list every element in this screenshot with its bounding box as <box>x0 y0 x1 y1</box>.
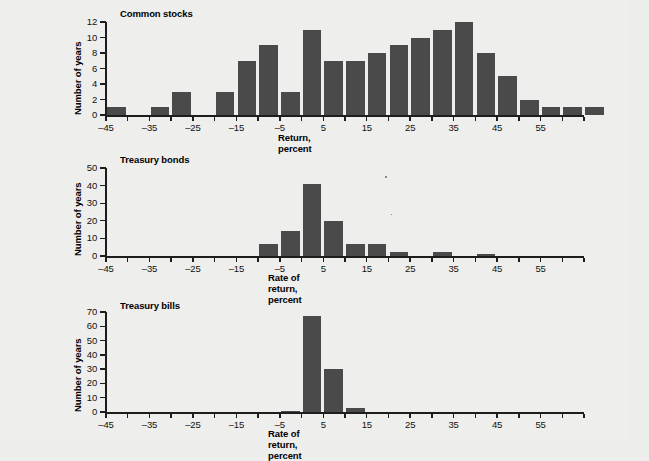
x-tick-minor <box>236 117 237 121</box>
chart-title-2: Treasury bills <box>120 300 180 311</box>
histogram-bar <box>172 92 191 115</box>
x-tick-minor <box>257 414 258 418</box>
y-tick <box>100 220 106 221</box>
histogram-bar <box>151 107 170 115</box>
x-tick-label: 25 <box>394 122 426 133</box>
x-tick-minor <box>496 258 497 262</box>
x-tick-label: 35 <box>438 419 470 430</box>
x-tick-label: 5 <box>307 263 339 274</box>
x-tick-label: 45 <box>481 419 513 430</box>
y-tick-label: 40 <box>68 180 97 191</box>
histogram-bar <box>216 92 235 115</box>
y-tick <box>100 83 106 84</box>
plot-area-0: –45–35–25–15–551525354555024681012 <box>106 22 584 115</box>
y-tick <box>100 167 106 168</box>
x-tick-minor <box>518 258 519 262</box>
y-tick <box>100 99 106 100</box>
x-tick-minor <box>127 258 128 262</box>
histogram-bar <box>346 244 365 256</box>
x-tick-minor <box>562 117 563 121</box>
y-tick <box>100 114 106 115</box>
x-tick-minor <box>301 117 302 121</box>
histogram-bar <box>542 107 561 115</box>
x-tick-minor <box>562 414 563 418</box>
x-tick-minor <box>431 117 432 121</box>
y-tick <box>100 185 106 186</box>
histogram-bar <box>324 369 343 412</box>
x-tick-label: –45 <box>90 263 122 274</box>
y-tick <box>100 255 106 256</box>
x-tick-label: –15 <box>220 122 252 133</box>
x-tick-minor <box>149 117 150 121</box>
y-tick-label: 4 <box>68 78 97 89</box>
x-tick-minor <box>366 414 367 418</box>
scan-artifact <box>385 176 387 178</box>
x-tick-minor <box>214 117 215 121</box>
histogram-bar <box>433 252 452 256</box>
x-tick-minor <box>236 258 237 262</box>
x-tick-label: 55 <box>525 263 557 274</box>
x-tick-label: 15 <box>351 122 383 133</box>
x-tick-minor <box>453 117 454 121</box>
y-tick <box>100 68 106 69</box>
y-tick <box>100 37 106 38</box>
x-tick-label: –25 <box>177 122 209 133</box>
x-tick-minor <box>105 117 106 121</box>
x-axis-title-0: Return, percent <box>278 132 312 154</box>
x-tick-minor <box>214 414 215 418</box>
x-tick-minor <box>496 414 497 418</box>
x-tick-minor <box>279 117 280 121</box>
y-tick-label: 0 <box>68 250 97 261</box>
y-tick-label: 30 <box>68 363 97 374</box>
x-tick-label: –35 <box>133 263 165 274</box>
x-tick-minor <box>192 414 193 418</box>
x-tick-minor <box>192 117 193 121</box>
histogram-bar <box>368 244 387 256</box>
y-tick <box>100 238 106 239</box>
y-tick-label: 50 <box>68 162 97 173</box>
x-tick-minor <box>475 414 476 418</box>
x-tick-minor <box>540 414 541 418</box>
histogram-bar <box>324 61 343 115</box>
histogram-bar <box>585 107 604 115</box>
x-tick-minor <box>301 414 302 418</box>
x-tick-label: 25 <box>394 419 426 430</box>
x-tick-minor <box>344 414 345 418</box>
x-tick-minor <box>257 258 258 262</box>
y-tick-label: 12 <box>68 16 97 27</box>
x-tick-minor <box>475 117 476 121</box>
histogram-bar <box>324 221 343 256</box>
x-tick-minor <box>170 117 171 121</box>
x-tick-label: 55 <box>525 419 557 430</box>
x-tick-minor <box>214 258 215 262</box>
x-tick-label: –25 <box>177 419 209 430</box>
x-tick-label: 25 <box>394 263 426 274</box>
histogram-bar <box>563 107 582 115</box>
x-tick-minor <box>388 414 389 418</box>
x-axis-title-2: Rate of return, percent <box>268 428 302 461</box>
y-tick-label: 2 <box>68 94 97 105</box>
x-tick-label: 55 <box>525 122 557 133</box>
y-tick-label: 0 <box>68 406 97 417</box>
y-tick <box>100 326 106 327</box>
histogram-bar <box>303 30 322 115</box>
y-tick <box>100 354 106 355</box>
y-tick-label: 8 <box>68 47 97 58</box>
x-tick-minor <box>540 258 541 262</box>
x-tick-minor <box>431 414 432 418</box>
y-tick-label: 70 <box>68 306 97 317</box>
histogram-bar <box>390 45 409 115</box>
x-tick-label: 35 <box>438 263 470 274</box>
scan-artifact <box>391 214 392 215</box>
y-tick-label: 6 <box>68 63 97 74</box>
x-tick-minor <box>409 258 410 262</box>
y-axis-line <box>105 168 107 258</box>
y-tick <box>100 340 106 341</box>
histogram-bar <box>303 316 322 412</box>
y-tick <box>100 397 106 398</box>
x-tick-minor <box>453 258 454 262</box>
plot-area-2: –45–35–25–15–551525354555010203040506070 <box>106 312 584 412</box>
x-tick-minor <box>388 258 389 262</box>
x-tick-minor <box>149 258 150 262</box>
histogram-bar <box>346 61 365 115</box>
